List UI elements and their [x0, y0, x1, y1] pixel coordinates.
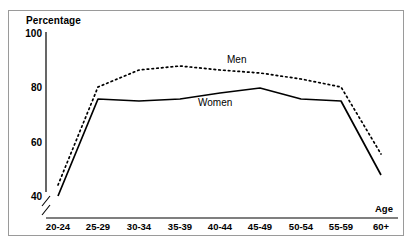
axis-break-mark-lower	[42, 205, 50, 215]
y-tick-label-100: 100	[18, 29, 42, 39]
y-tick-label-80: 80	[18, 83, 42, 93]
y-tick-label-40: 40	[18, 192, 42, 202]
axis-break-mark-upper	[42, 196, 50, 206]
x-tick-label-60-plus: 60+	[358, 222, 404, 232]
series-men-line	[58, 66, 381, 185]
x-axis-title: Age	[375, 204, 393, 214]
series-label-women: Women	[198, 98, 232, 108]
y-tick-label-60: 60	[18, 138, 42, 148]
y-axis-title: Percentage	[26, 16, 81, 26]
chart-plot-area	[0, 0, 414, 247]
x-tick-label-30-34: 30-34	[116, 222, 162, 232]
series-label-men: Men	[227, 55, 246, 65]
x-tick-label-25-29: 25-29	[75, 222, 121, 232]
x-tick-label-45-49: 45-49	[237, 222, 283, 232]
chart-page: Percentage 100 80 60 40 20-24 25-29 30-3…	[0, 0, 414, 247]
